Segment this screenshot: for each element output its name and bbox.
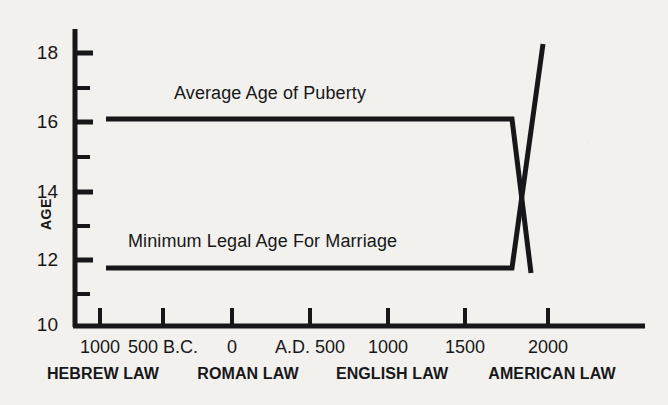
x-tick-label-0: 0	[207, 337, 257, 358]
era-label-hebrew-law: HEBREW LAW	[38, 365, 168, 383]
chart-canvas: AGE 18 16 14 12 10 1000 500 B.C. 0 A.D. …	[0, 0, 668, 405]
y-tick-label-16: 16	[14, 111, 58, 133]
x-tick-label-ad500: A.D. 500	[268, 337, 352, 358]
series-annotation-marriage: Minimum Legal Age For Marriage	[128, 231, 397, 252]
era-label-english-law: ENGLISH LAW	[322, 365, 462, 383]
era-label-roman-law: ROMAN LAW	[183, 365, 313, 383]
y-tick-label-14: 14	[14, 181, 58, 203]
x-axis-ticks	[100, 308, 548, 326]
y-tick-label-18: 18	[14, 42, 58, 64]
x-tick-label-1500: 1500	[425, 337, 505, 358]
era-label-american-law: AMERICAN LAW	[472, 365, 632, 383]
x-tick-label-500bc: 500 B.C.	[122, 337, 204, 358]
y-tick-label-12: 12	[14, 249, 58, 271]
x-tick-label-1000: 1000	[348, 337, 428, 358]
series-annotation-puberty: Average Age of Puberty	[174, 83, 366, 104]
y-tick-label-10: 10	[14, 314, 58, 336]
x-tick-label-2000: 2000	[508, 337, 588, 358]
